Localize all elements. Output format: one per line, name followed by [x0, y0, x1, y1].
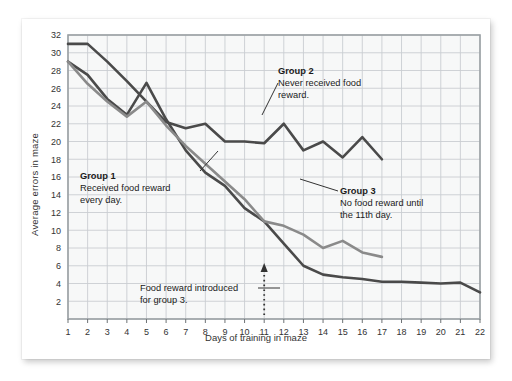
y-tick-label: 22	[51, 119, 61, 129]
x-tick-label: 11	[260, 327, 269, 337]
y-tick-label: 8	[56, 243, 61, 253]
x-tick-label: 10	[240, 327, 250, 337]
y-tick-label: 2	[56, 297, 61, 307]
annotation-line: Never received food	[278, 78, 361, 88]
x-tick-label: 14	[318, 327, 328, 337]
y-tick-label: 4	[56, 279, 61, 289]
y-tick-label: 24	[51, 101, 61, 111]
y-axis-ticks: 2468101214161820222426283032	[51, 30, 61, 306]
x-tick-label: 12	[279, 327, 289, 337]
plot-area: 2468101214161820222426283032123456789101…	[22, 19, 490, 359]
x-tick-label: 4	[124, 327, 129, 337]
x-tick-label: 16	[357, 327, 367, 337]
x-tick-label: 13	[298, 327, 308, 337]
annotation-line: every day.	[80, 195, 122, 205]
x-tick-label: 19	[416, 327, 426, 337]
x-tick-label: 15	[338, 327, 348, 337]
annotation-line: Food reward introduced	[140, 283, 238, 293]
y-tick-label: 10	[51, 226, 61, 236]
x-tick-label: 2	[85, 327, 90, 337]
y-tick-label: 18	[51, 155, 61, 165]
x-tick-label: 9	[222, 327, 227, 337]
chart-card: Average errors in maze Days of training …	[22, 19, 490, 359]
line-chart: 2468101214161820222426283032123456789101…	[22, 19, 490, 359]
y-tick-label: 32	[51, 30, 61, 40]
x-tick-label: 17	[377, 327, 387, 337]
y-tick-label: 16	[51, 172, 61, 182]
y-tick-label: 28	[51, 66, 61, 76]
y-tick-label: 14	[51, 190, 61, 200]
x-axis-ticks: 12345678910111213141516171819202122	[65, 319, 485, 337]
annotation-title: Group 2	[278, 66, 314, 76]
y-tick-label: 30	[51, 48, 61, 58]
x-tick-label: 7	[183, 327, 188, 337]
annotation-title: Group 1	[80, 171, 116, 181]
x-tick-label: 5	[144, 327, 149, 337]
annotation-line: the 11th day.	[340, 210, 392, 220]
x-tick-label: 18	[397, 327, 407, 337]
annotation-line: Received food reward	[80, 183, 170, 193]
x-tick-label: 1	[65, 327, 70, 337]
x-tick-label: 3	[105, 327, 110, 337]
annotation-line: for group 3.	[140, 295, 188, 305]
annotation-line: No food reward until	[340, 198, 423, 208]
y-tick-label: 6	[56, 261, 61, 271]
x-tick-label: 6	[164, 327, 169, 337]
y-tick-label: 20	[51, 137, 61, 147]
x-tick-label: 22	[475, 327, 485, 337]
x-tick-label: 8	[203, 327, 208, 337]
annotation-line: reward.	[278, 90, 309, 100]
x-tick-label: 21	[455, 327, 465, 337]
x-tick-label: 20	[436, 327, 446, 337]
annotation-title: Group 3	[340, 186, 376, 196]
y-tick-label: 26	[51, 84, 61, 94]
y-tick-label: 12	[51, 208, 61, 218]
